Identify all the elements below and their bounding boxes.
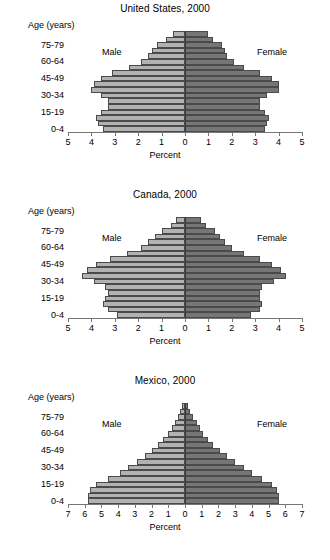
x-axis-tick <box>162 132 163 136</box>
x-axis-tick <box>135 504 136 508</box>
x-axis-tick <box>185 318 186 322</box>
series-label-male: Male <box>102 419 122 429</box>
y-axis-title: Age (years) <box>28 392 75 402</box>
y-axis-tick-label: 75-79 <box>20 40 64 50</box>
chart-title: Canada, 2000 <box>0 189 330 200</box>
y-axis-tick-label: 0-4 <box>20 310 64 320</box>
y-axis-tick-label: 75-79 <box>20 412 64 422</box>
x-axis-tick <box>68 132 69 136</box>
x-axis-tick <box>185 504 186 508</box>
x-axis-tick-label: 1 <box>198 137 218 147</box>
chart-title: Mexico, 2000 <box>0 375 330 386</box>
series-label-female: Female <box>257 47 287 57</box>
x-axis-tick-label: 5 <box>58 323 78 333</box>
x-axis-tick-label: 7 <box>292 509 312 519</box>
x-axis-tick-label: 2 <box>128 323 148 333</box>
x-axis-tick <box>255 318 256 322</box>
y-axis-tick-label: 30-34 <box>20 90 64 100</box>
y-axis-tick-label: 45-49 <box>20 445 64 455</box>
x-axis-tick <box>138 132 139 136</box>
x-axis-tick <box>101 504 102 508</box>
x-axis-tick-label: 4 <box>81 137 101 147</box>
chart-title: United States, 2000 <box>0 3 330 14</box>
x-axis-tick-label: 2 <box>128 137 148 147</box>
x-axis-tick-label: 5 <box>292 137 312 147</box>
x-axis-tick <box>85 504 86 508</box>
y-axis-tick-label: 45-49 <box>20 73 64 83</box>
x-axis-tick-label: 4 <box>269 323 289 333</box>
x-axis-tick-label: 0 <box>175 323 195 333</box>
x-axis-tick-label: 3 <box>105 137 125 147</box>
y-axis-tick-label: 30-34 <box>20 276 64 286</box>
center-axis-line <box>185 31 186 132</box>
x-axis-tick <box>279 132 280 136</box>
x-axis-tick <box>232 132 233 136</box>
y-axis-tick-label: 30-34 <box>20 462 64 472</box>
pyramid-chart-2: Mexico, 2000Age (years)MaleFemale7654321… <box>0 372 330 560</box>
x-axis-tick <box>285 504 286 508</box>
x-axis-tick <box>255 132 256 136</box>
x-axis-tick <box>202 504 203 508</box>
pyramid-chart-0: United States, 2000Age (years)MaleFemale… <box>0 0 330 186</box>
x-axis-tick <box>68 504 69 508</box>
x-axis-tick-label: 0 <box>175 137 195 147</box>
x-axis-tick-label: 2 <box>222 323 242 333</box>
center-axis-line <box>185 217 186 318</box>
x-axis-tick-label: 3 <box>245 323 265 333</box>
x-axis-tick-label: 3 <box>245 137 265 147</box>
y-axis-tick-label: 0-4 <box>20 124 64 134</box>
x-axis-tick <box>162 318 163 322</box>
x-axis-tick <box>185 132 186 136</box>
x-axis-tick <box>91 318 92 322</box>
x-axis-tick <box>232 318 233 322</box>
y-axis-tick-label: 60-64 <box>20 242 64 252</box>
y-axis-title: Age (years) <box>28 206 75 216</box>
x-axis-tick <box>68 318 69 322</box>
x-axis-title: Percent <box>0 336 330 346</box>
x-axis-tick <box>152 504 153 508</box>
x-axis-tick <box>302 132 303 136</box>
x-axis-tick <box>269 504 270 508</box>
x-axis-tick-label: 3 <box>105 323 125 333</box>
x-axis-tick <box>252 504 253 508</box>
x-axis-tick-label: 2 <box>222 137 242 147</box>
series-label-male: Male <box>102 233 122 243</box>
y-axis-tick-label: 60-64 <box>20 428 64 438</box>
series-label-female: Female <box>257 233 287 243</box>
pyramid-chart-1: Canada, 2000Age (years)MaleFemale5432101… <box>0 186 330 372</box>
x-axis-tick <box>115 318 116 322</box>
x-axis-tick-label: 4 <box>81 323 101 333</box>
x-axis-tick <box>218 504 219 508</box>
series-label-male: Male <box>102 47 122 57</box>
y-axis-tick-label: 45-49 <box>20 259 64 269</box>
x-axis-tick <box>279 318 280 322</box>
y-axis-tick-label: 15-19 <box>20 479 64 489</box>
x-axis-tick <box>208 132 209 136</box>
y-axis-tick-label: 15-19 <box>20 293 64 303</box>
x-axis-tick-label: 1 <box>152 137 172 147</box>
y-axis-tick-label: 0-4 <box>20 496 64 506</box>
x-axis-title: Percent <box>0 522 330 532</box>
x-axis-title: Percent <box>0 150 330 160</box>
x-axis-tick <box>91 132 92 136</box>
y-axis-tick-label: 60-64 <box>20 56 64 66</box>
y-axis-title: Age (years) <box>28 20 75 30</box>
x-axis-tick-label: 1 <box>198 323 218 333</box>
x-axis-tick <box>118 504 119 508</box>
x-axis-tick <box>302 318 303 322</box>
series-label-female: Female <box>257 419 287 429</box>
x-axis-tick-label: 5 <box>58 137 78 147</box>
y-axis-tick-label: 75-79 <box>20 226 64 236</box>
x-axis-tick <box>168 504 169 508</box>
population-pyramid-figure: United States, 2000Age (years)MaleFemale… <box>0 0 330 560</box>
center-axis-line <box>185 403 186 504</box>
x-axis-tick <box>208 318 209 322</box>
x-axis-tick-label: 4 <box>269 137 289 147</box>
y-axis-tick-label: 15-19 <box>20 107 64 117</box>
x-axis-tick-label: 1 <box>152 323 172 333</box>
x-axis-tick-label: 5 <box>292 323 312 333</box>
x-axis-tick <box>302 504 303 508</box>
x-axis-tick <box>235 504 236 508</box>
x-axis-tick <box>138 318 139 322</box>
x-axis-tick <box>115 132 116 136</box>
